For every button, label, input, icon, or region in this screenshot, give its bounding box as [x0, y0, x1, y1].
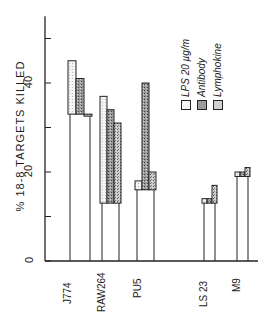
legend-swatch-lps — [181, 100, 191, 110]
y-tick-40: 40 — [22, 76, 34, 88]
y-tick-0: 0 — [23, 257, 35, 263]
legend-item-lps: LPS 20 µg/m — [180, 39, 191, 110]
y-tick-20: 20 — [22, 165, 34, 177]
legend-label-antibody: Antibody — [196, 58, 207, 97]
legend-item-antibody: Antibody — [196, 58, 207, 110]
category-label-raw264: RAW264 — [96, 272, 107, 312]
legend-label-lymphokine: Lymphokine — [212, 43, 223, 97]
bar-chart — [0, 0, 271, 318]
legend-swatch-antibody — [197, 100, 207, 110]
axes — [45, 16, 258, 261]
category-label-m9: M9 — [231, 278, 242, 292]
legend-label-lps: LPS 20 µg/m — [180, 39, 191, 97]
legend-swatch-lymphokine — [213, 100, 223, 110]
category-label-ls23: LS 23 — [198, 281, 209, 307]
legend-item-lymphokine: Lymphokine — [212, 43, 223, 110]
category-label-pu5: PU5 — [132, 279, 143, 298]
category-label-j774: J774 — [62, 282, 73, 304]
